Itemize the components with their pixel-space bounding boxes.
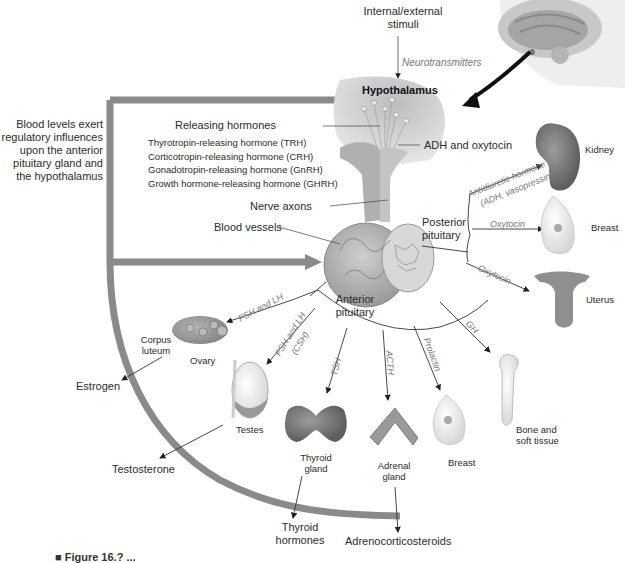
releasing-hormone-item: Corticotropin-releasing hormone (CRH) [148, 151, 338, 162]
releasing-hormone-item: Thyrotropin-releasing hormone (TRH) [148, 137, 338, 148]
thyroid-hormones-line2: hormones [270, 534, 330, 547]
uterus-label: Uterus [586, 294, 614, 305]
breast-label-posterior: Breast [591, 222, 618, 233]
thyroid-gland-icon [285, 406, 347, 442]
thyroid-line1: Thyroid [296, 452, 336, 463]
bone-icon [500, 355, 518, 426]
estrogen-label: Estrogen [76, 380, 120, 393]
blood-vessels-label: Blood vessels [214, 221, 282, 234]
adrenal-line1: Adrenal [372, 460, 416, 471]
feedback-line: upon the anterior [0, 144, 103, 157]
releasing-hormones-heading: Releasing hormones [175, 119, 276, 132]
neurotransmitters-label: Neurotransmitters [402, 57, 481, 70]
anterior-line1: Anterior [330, 293, 380, 306]
nerve-axons-label: Nerve axons [250, 200, 312, 213]
adrenal-gland-label: Adrenal gland [372, 460, 416, 482]
corpus-line2: luteum [136, 345, 176, 356]
testes-label: Testes [236, 424, 263, 435]
anterior-line2: pituitary [330, 306, 380, 319]
feedback-line: regulatory influences [0, 131, 103, 144]
breast-label-prolactin: Breast [448, 457, 475, 468]
posterior-line2: pituitary [422, 229, 466, 242]
adrenal-gland-icon [370, 408, 418, 445]
adrenocorticosteroids-label: Adrenocorticosteroids [345, 535, 451, 548]
adh-oxytocin-label: ADH and oxytocin [424, 139, 512, 152]
releasing-hormone-item: Gonadotropin-releasing hormone (GnRH) [148, 164, 338, 175]
stimuli-label: Internal/external stimuli [358, 5, 448, 31]
hypothalamus-label: Hypothalamus [362, 84, 438, 97]
ovary-icon [172, 316, 228, 344]
feedback-text: Blood levels exert regulatory influences… [0, 118, 103, 183]
kidney-label: Kidney [585, 144, 614, 155]
uterus-icon [534, 272, 590, 328]
anterior-pituitary-label: Anterior pituitary [330, 293, 380, 319]
stimuli-line2: stimuli [358, 18, 448, 31]
breast-icon-posterior [541, 196, 574, 254]
thyroid-hormones-label: Thyroid hormones [270, 521, 330, 547]
bone-soft-tissue-label: Bone and soft tissue [516, 424, 559, 446]
corpus-line1: Corpus [136, 334, 176, 345]
figure-caption-clipped: ■ Figure 16.? ... [55, 551, 136, 563]
feedback-line: pituitary gland and [0, 157, 103, 170]
testes-icon [232, 360, 268, 418]
thyroid-line2: gland [296, 463, 336, 474]
thyroid-gland-label: Thyroid gland [296, 452, 336, 474]
corpus-luteum-label: Corpus luteum [136, 334, 176, 356]
testosterone-label: Testosterone [112, 463, 175, 476]
feedback-line: Blood levels exert [0, 118, 103, 131]
bone-line2: soft tissue [516, 435, 559, 446]
thyroid-hormones-line1: Thyroid [270, 521, 330, 534]
releasing-hormone-item: Growth hormone-releasing hormone (GHRH) [148, 178, 338, 189]
feedback-line: the hypothalamus [0, 170, 103, 183]
head-brain-icon [498, 0, 625, 88]
breast-icon-prolactin [433, 395, 465, 445]
ovary-label: Ovary [190, 355, 215, 366]
acth-label: ACTH [383, 350, 398, 375]
adrenal-line2: gland [372, 471, 416, 482]
posterior-pituitary-label: Posterior pituitary [422, 216, 466, 242]
bone-line1: Bone and [516, 424, 559, 435]
stimuli-line1: Internal/external [358, 5, 448, 18]
posterior-line1: Posterior [422, 216, 466, 229]
releasing-hormones-list: Thyrotropin-releasing hormone (TRH) Cort… [148, 137, 338, 189]
oxytocin-breast-label: Oxytocin [490, 218, 525, 231]
